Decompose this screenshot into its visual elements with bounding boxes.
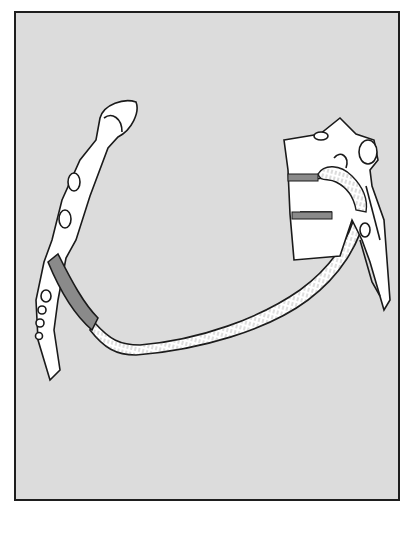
rib-illustration (0, 0, 408, 534)
disc-highlight-upper (288, 174, 318, 181)
sternum (36, 101, 138, 380)
disc-highlight-lower (292, 212, 332, 219)
